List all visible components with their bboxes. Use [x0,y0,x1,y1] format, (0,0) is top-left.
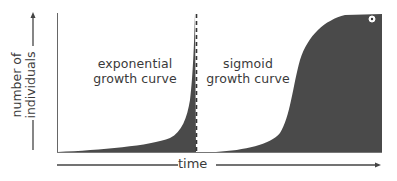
exponential-curve-label: exponential growth curve [80,56,190,86]
diagram-graphics [0,0,397,181]
y-axis-label: number of individuals [4,20,44,150]
x-axis-label: time [178,156,207,171]
circle-marker-icon [369,16,375,22]
exponential-label-line1: exponential [80,56,190,71]
y-axis-label-line2: individuals [24,51,38,118]
exponential-label-line2: growth curve [80,71,190,86]
y-axis-label-line1: number of [10,51,24,118]
x-axis-arrow [57,163,381,168]
sigmoid-label-line1: sigmoid [206,56,290,71]
sigmoid-curve-label: sigmoid growth curve [206,56,290,86]
growth-curves-diagram: number of individuals exponential growth… [0,0,397,181]
sigmoid-label-line2: growth curve [206,71,290,86]
